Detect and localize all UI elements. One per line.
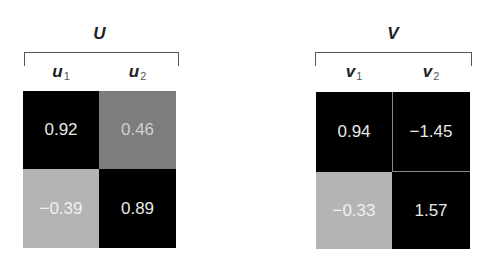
matrix-v-divider-horizontal <box>392 171 470 172</box>
matrix-u-title: U <box>23 24 176 44</box>
matrix-v-divider-vertical <box>392 92 393 172</box>
matrix-v-cell-1-2: −1.45 <box>392 92 470 172</box>
col-subscript: 2 <box>140 70 146 82</box>
col-symbol: v <box>346 62 355 81</box>
matrix-u-cell-2-1: −0.39 <box>23 169 99 248</box>
matrix-v-col-1-label: v1 <box>316 62 392 82</box>
matrix-v-cell-1-1: 0.94 <box>316 92 392 172</box>
matrix-v-col-2-label: v2 <box>392 62 470 82</box>
matrix-u-cell-1-2: 0.46 <box>99 91 176 169</box>
col-subscript: 1 <box>64 70 70 82</box>
matrix-v-title: V <box>316 24 470 44</box>
matrix-u-col-2-label: u2 <box>99 62 176 82</box>
col-symbol: v <box>423 62 432 81</box>
matrix-u-cell-1-1: 0.92 <box>23 91 99 169</box>
matrix-v-cell-2-2: 1.57 <box>392 172 470 249</box>
matrix-u-cell-2-2: 0.89 <box>99 169 176 248</box>
matrix-v-cell-2-1: −0.33 <box>316 172 392 249</box>
col-subscript: 1 <box>356 70 362 82</box>
matrix-u-col-1-label: u1 <box>23 62 99 82</box>
col-symbol: u <box>52 62 62 81</box>
col-symbol: u <box>129 62 139 81</box>
col-subscript: 2 <box>433 70 439 82</box>
